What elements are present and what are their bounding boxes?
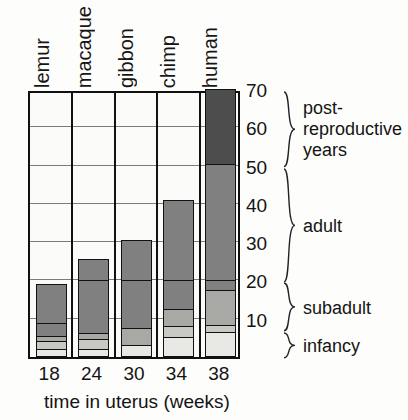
stage-label-adult: adult [303, 216, 342, 237]
brace-infancy [283, 332, 297, 359]
y-tick-20: 20 [246, 272, 267, 291]
x-tick-18: 18 [28, 364, 70, 383]
y-tick-40: 40 [246, 196, 267, 215]
x-tick-24: 24 [71, 364, 113, 383]
y-tick-10: 10 [246, 311, 267, 330]
bar-segment-human-subadult [205, 290, 236, 325]
brace-subadult [283, 282, 297, 332]
y-tick-50: 50 [246, 158, 267, 177]
y-tick-30: 30 [246, 234, 267, 253]
bar-gibbon[interactable] [121, 240, 152, 357]
bar-segment-lemur-adult [36, 284, 67, 322]
bar-segment-lemur-subadult [36, 336, 67, 341]
column-separator-1 [71, 93, 73, 357]
bar-segment-chimp-subadult-late [163, 280, 194, 309]
species-label-gibbon: gibbon [116, 28, 136, 88]
x-tick-30: 30 [113, 364, 155, 383]
y-tick-60: 60 [246, 119, 267, 138]
bar-segment-lemur-infancy [36, 349, 67, 357]
brace-adult [283, 168, 297, 283]
bar-lemur[interactable] [36, 284, 67, 357]
bar-segment-macaque-infancy [78, 349, 109, 357]
column-separator-2 [114, 93, 116, 357]
bar-segment-chimp-infancy [163, 337, 194, 357]
bar-segment-human-infancy [205, 332, 236, 357]
column-separator-4 [199, 93, 201, 357]
x-axis-title: time in uterus (weeks) [22, 392, 252, 411]
column-separator-3 [156, 93, 158, 357]
species-label-lemur: lemur [32, 38, 52, 88]
bar-chimp[interactable] [163, 200, 194, 357]
stage-label-post-reproductive-years: post-reproductiveyears [303, 98, 407, 162]
bar-segment-lemur-subadult-late [36, 323, 67, 336]
bar-segment-macaque-subadult-late [78, 280, 109, 332]
bar-segment-chimp-infancy-late [163, 326, 194, 337]
bar-segment-gibbon-infancy-late [121, 328, 152, 345]
bar-segment-human-infancy-late [205, 325, 236, 332]
bar-segment-macaque-infancy-late [78, 339, 109, 350]
bar-segment-human-adult [205, 164, 236, 281]
bar-human[interactable] [205, 89, 236, 357]
plot-area [28, 91, 240, 359]
stage-label-subadult: subadult [303, 298, 371, 319]
chart-figure: lemur macaque gibbon chimp human 7060504… [0, 0, 408, 420]
stage-label-infancy: infancy [303, 336, 360, 357]
brace-post-reproductive-years [283, 91, 297, 168]
bar-segment-gibbon-adult [121, 240, 152, 280]
species-label-macaque: macaque [74, 6, 94, 88]
y-tick-70: 70 [246, 81, 267, 100]
bar-segment-chimp-subadult [163, 309, 194, 325]
bar-segment-chimp-adult [163, 200, 194, 280]
species-label-chimp: chimp [158, 35, 178, 88]
bar-segment-macaque-subadult [78, 333, 109, 339]
species-label-human: human [200, 27, 220, 88]
bar-segment-macaque-adult [78, 259, 109, 280]
x-tick-34: 34 [155, 364, 197, 383]
bar-segment-gibbon-subadult [121, 280, 152, 327]
bar-segment-gibbon-infancy [121, 345, 152, 357]
bar-segment-lemur-infancy-late [36, 341, 67, 349]
bar-macaque[interactable] [78, 259, 109, 357]
bar-segment-human-subadult-late [205, 280, 236, 290]
x-tick-38: 38 [198, 364, 240, 383]
bar-segment-human-post-reproductive [205, 89, 236, 164]
